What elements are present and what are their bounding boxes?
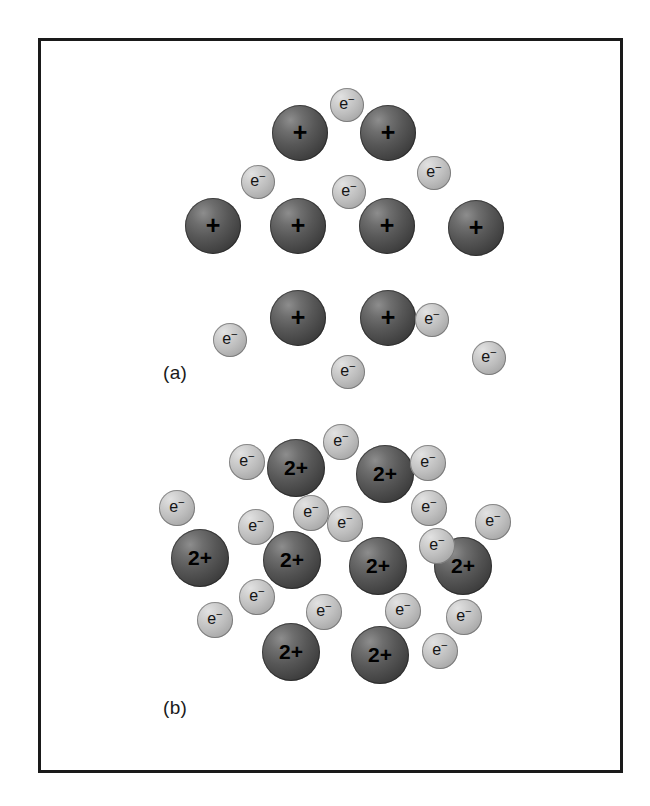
electron-charge-superscript: − (342, 430, 349, 442)
electron-charge-superscript: − (312, 501, 319, 513)
panel-b: 2+2+2+2+2+2+2+2+e−e−e−e−e−e−e−e−e−e−e−e−… (41, 41, 620, 770)
electron-symbol: e (432, 641, 441, 658)
cation-charge-label: 2+ (366, 555, 390, 576)
electron-charge-superscript: − (258, 585, 265, 597)
cation-charge-label: 2+ (188, 547, 212, 568)
electron-symbol: e (485, 512, 494, 529)
delocalized-electron: e− (327, 506, 363, 542)
delocalized-electron: e− (385, 593, 421, 629)
electron-symbol-label: e− (337, 515, 353, 531)
metal-cation: 2+ (263, 531, 321, 589)
electron-symbol: e (239, 452, 248, 469)
electron-symbol: e (395, 601, 404, 618)
electron-symbol-label: e− (421, 499, 437, 515)
delocalized-electron: e− (159, 490, 195, 526)
delocalized-electron: e− (422, 633, 458, 669)
electron-charge-superscript: − (346, 512, 353, 524)
cation-charge-label: 2+ (451, 555, 475, 576)
electron-charge-superscript: − (325, 600, 332, 612)
electron-symbol: e (333, 432, 342, 449)
figure-root: ++++++++e−e−e−e−e−e−e−e−(a)2+2+2+2+2+2+2… (0, 0, 650, 806)
metal-cation: 2+ (351, 626, 409, 684)
electron-symbol: e (248, 517, 257, 534)
metal-cation: 2+ (171, 529, 229, 587)
electron-symbol-label: e− (303, 504, 319, 520)
delocalized-electron: e− (446, 599, 482, 635)
panel-b-caption: (b) (163, 697, 187, 719)
electron-charge-superscript: − (429, 451, 436, 463)
electron-symbol-label: e− (485, 513, 501, 529)
electron-symbol-label: e− (239, 453, 255, 469)
electron-charge-superscript: − (404, 599, 411, 611)
electron-symbol-label: e− (316, 603, 332, 619)
electron-charge-superscript: − (438, 534, 445, 546)
electron-symbol: e (249, 587, 258, 604)
cation-charge-label: 2+ (373, 463, 397, 484)
cation-charge-label: 2+ (279, 641, 303, 662)
electron-charge-superscript: − (494, 510, 501, 522)
delocalized-electron: e− (306, 594, 342, 630)
cation-charge-label: 2+ (284, 457, 308, 478)
metal-cation: 2+ (262, 623, 320, 681)
delocalized-electron: e− (239, 579, 275, 615)
electron-symbol-label: e− (248, 518, 264, 534)
electron-symbol: e (337, 514, 346, 531)
electron-symbol-label: e− (169, 499, 185, 515)
cation-charge-label: 2+ (368, 644, 392, 665)
electron-symbol-label: e− (207, 611, 223, 627)
electron-symbol: e (303, 503, 312, 520)
electron-symbol-label: e− (249, 588, 265, 604)
electron-charge-superscript: − (216, 608, 223, 620)
electron-charge-superscript: − (430, 496, 437, 508)
electron-charge-superscript: − (248, 450, 255, 462)
electron-symbol-label: e− (420, 454, 436, 470)
figure-frame-border: ++++++++e−e−e−e−e−e−e−e−(a)2+2+2+2+2+2+2… (38, 38, 623, 773)
electron-symbol-label: e− (395, 602, 411, 618)
electron-charge-superscript: − (257, 515, 264, 527)
electron-symbol: e (456, 607, 465, 624)
electron-symbol-label: e− (333, 433, 349, 449)
electron-symbol: e (429, 536, 438, 553)
delocalized-electron: e− (197, 602, 233, 638)
delocalized-electron: e− (411, 490, 447, 526)
delocalized-electron: e− (475, 504, 511, 540)
delocalized-electron: e− (293, 495, 329, 531)
electron-symbol-label: e− (456, 608, 472, 624)
electron-charge-superscript: − (465, 605, 472, 617)
cation-charge-label: 2+ (280, 549, 304, 570)
delocalized-electron: e− (238, 509, 274, 545)
delocalized-electron: e− (410, 445, 446, 481)
electron-symbol: e (316, 602, 325, 619)
electron-symbol: e (169, 498, 178, 515)
electron-symbol: e (420, 453, 429, 470)
electron-symbol: e (421, 498, 430, 515)
electron-charge-superscript: − (178, 496, 185, 508)
metal-cation: 2+ (267, 439, 325, 497)
delocalized-electron: e− (323, 424, 359, 460)
delocalized-electron: e− (229, 444, 265, 480)
electron-symbol-label: e− (432, 642, 448, 658)
metal-cation: 2+ (356, 445, 414, 503)
electron-symbol: e (207, 610, 216, 627)
electron-symbol-label: e− (429, 537, 445, 553)
delocalized-electron: e− (419, 528, 455, 564)
electron-charge-superscript: − (441, 639, 448, 651)
metal-cation: 2+ (349, 537, 407, 595)
